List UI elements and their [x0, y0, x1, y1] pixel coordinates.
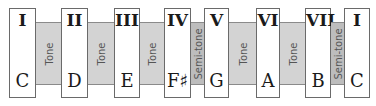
interval-gap-6: Tone	[280, 22, 305, 85]
note-name: B	[306, 71, 330, 91]
note-name: D	[62, 71, 87, 91]
degree-label: V	[205, 10, 228, 30]
interval-gap-4: Semi-tone	[191, 22, 204, 85]
note-box-5: V G	[204, 8, 229, 98]
degree-label: I	[345, 10, 369, 30]
note-name: G	[205, 71, 228, 91]
note-name: E	[115, 71, 139, 91]
degree-label: I	[10, 10, 35, 30]
note-box-1: I C	[9, 8, 36, 98]
note-box-6: VI A	[256, 8, 280, 98]
interval-label: Tone	[287, 42, 298, 65]
degree-label: VI	[257, 10, 279, 30]
degree-label: III	[115, 10, 139, 30]
interval-label: Tone	[43, 42, 54, 65]
interval-gap-5: Tone	[229, 22, 256, 85]
note-box-2: II D	[61, 8, 88, 98]
degree-label: VII	[306, 10, 330, 30]
note-name: C	[10, 71, 35, 91]
interval-label: Semi-tone	[192, 28, 203, 79]
note-box-7: VII B	[305, 8, 331, 98]
note-box-3: III E	[114, 8, 140, 98]
scale-diagram: I C Tone II D Tone III E Tone IV F♯ Semi…	[0, 0, 376, 106]
note-name: A	[257, 71, 279, 91]
interval-label: Semi-tone	[332, 28, 343, 79]
note-name: C	[345, 71, 369, 91]
interval-gap-3: Tone	[140, 22, 164, 85]
interval-label: Tone	[147, 42, 158, 65]
interval-label: Tone	[237, 42, 248, 65]
note-name: F♯	[165, 71, 190, 91]
note-box-4: IV F♯	[164, 8, 191, 98]
degree-label: IV	[165, 10, 190, 30]
interval-gap-2: Tone	[88, 22, 114, 85]
interval-gap-1: Tone	[36, 22, 61, 85]
interval-label: Tone	[96, 42, 107, 65]
degree-label: II	[62, 10, 87, 30]
note-box-8: I C	[344, 8, 370, 98]
interval-gap-7: Semi-tone	[331, 22, 344, 85]
